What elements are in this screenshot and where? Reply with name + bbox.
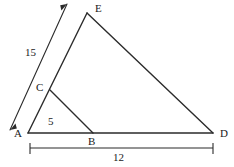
vertex-label-c: C — [36, 82, 43, 93]
dimension-label-15: 15 — [25, 47, 36, 58]
vertex-label-a: A — [14, 128, 22, 139]
vertex-label-d: D — [220, 128, 228, 139]
vertex-label-b: B — [88, 136, 95, 147]
segment-a-e — [28, 13, 87, 133]
dimension-label-12: 12 — [113, 152, 124, 163]
segment-e-d — [87, 13, 213, 133]
dimension-label-5: 5 — [48, 116, 54, 127]
vertex-label-e: E — [95, 3, 102, 14]
geometry-figure: A B C D E 15 5 12 — [0, 0, 234, 167]
segment-c-b — [50, 90, 93, 133]
